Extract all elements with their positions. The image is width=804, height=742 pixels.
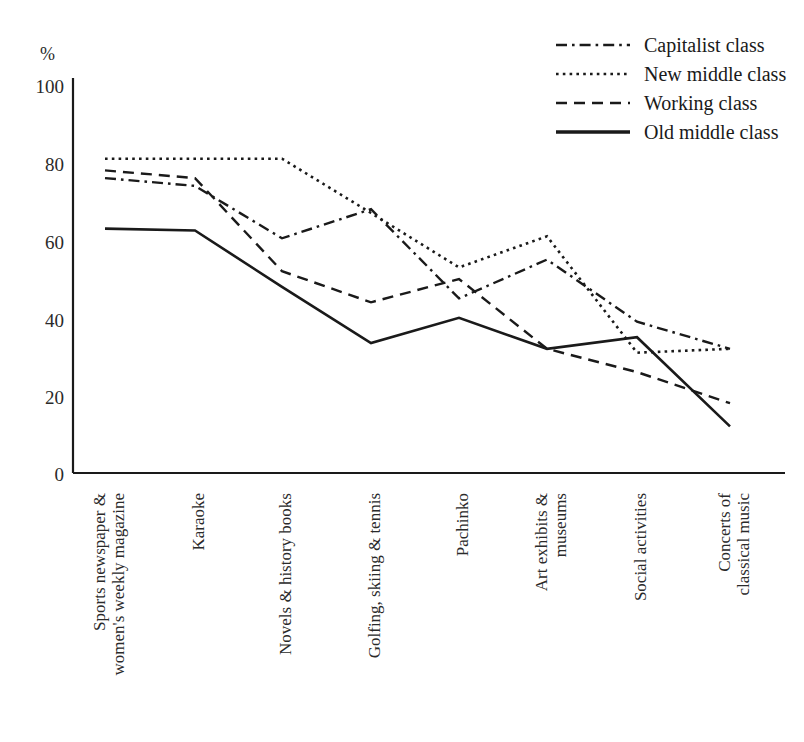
- legend-item-old-middle-class[interactable]: Old middle class: [556, 121, 779, 143]
- x-label-novels-history-books: Novels & history books: [276, 493, 295, 655]
- svg-text:Pachinko: Pachinko: [453, 493, 472, 556]
- x-axis-labels: Sports newspaper & women's weekly magazi…: [90, 493, 753, 676]
- legend-item-new-middle-class[interactable]: New middle class: [556, 63, 786, 85]
- svg-text:Art exhibits &: Art exhibits &: [532, 493, 551, 591]
- svg-text:classical music: classical music: [734, 493, 753, 596]
- svg-text:Karaoke: Karaoke: [189, 493, 208, 551]
- x-label-karaoke: Karaoke: [189, 493, 208, 551]
- svg-text:Concerts of: Concerts of: [715, 493, 734, 572]
- legend-label-old-middle-class: Old middle class: [644, 121, 779, 143]
- series-line-old-middle-class: [105, 229, 730, 427]
- svg-text:museums: museums: [551, 493, 570, 557]
- x-label-concerts-classical-music: Concerts of classical music: [715, 493, 753, 596]
- chart-container: % 100 80 60 40 20 0 Sports newspaper & w…: [0, 0, 804, 742]
- y-tick-100: 100: [36, 76, 65, 97]
- svg-text:women's weekly magazine: women's weekly magazine: [109, 493, 128, 675]
- y-axis-unit-label: %: [40, 44, 55, 64]
- x-label-pachinko: Pachinko: [453, 493, 472, 556]
- legend-label-working-class: Working class: [644, 92, 758, 115]
- legend-item-working-class[interactable]: Working class: [556, 92, 758, 115]
- line-chart: % 100 80 60 40 20 0 Sports newspaper & w…: [0, 0, 804, 742]
- legend: Capitalist class New middle class Workin…: [556, 34, 786, 143]
- legend-label-capitalist-class: Capitalist class: [644, 34, 765, 57]
- svg-text:Sports newspaper &: Sports newspaper &: [90, 493, 109, 631]
- x-label-social-activities: Social activities: [631, 493, 650, 601]
- y-tick-20: 20: [45, 387, 64, 408]
- legend-label-new-middle-class: New middle class: [644, 63, 786, 85]
- svg-text:Novels & history books: Novels & history books: [276, 493, 295, 655]
- x-label-art-exhibits-museums: Art exhibits & museums: [532, 493, 570, 591]
- y-tick-60: 60: [45, 232, 64, 253]
- y-tick-0: 0: [55, 464, 65, 485]
- y-tick-40: 40: [45, 310, 64, 331]
- series-group: [105, 159, 730, 427]
- x-label-sports-newspaper: Sports newspaper & women's weekly magazi…: [90, 493, 128, 675]
- x-label-golfing-skiing-tennis: Golfing, skiing & tennis: [365, 493, 384, 658]
- svg-text:Social activities: Social activities: [631, 493, 650, 601]
- y-tick-80: 80: [45, 154, 64, 175]
- series-line-capitalist-class: [105, 178, 730, 349]
- legend-item-capitalist-class[interactable]: Capitalist class: [556, 34, 765, 57]
- svg-text:Golfing, skiing & tennis: Golfing, skiing & tennis: [365, 493, 384, 658]
- series-line-working-class: [105, 170, 730, 403]
